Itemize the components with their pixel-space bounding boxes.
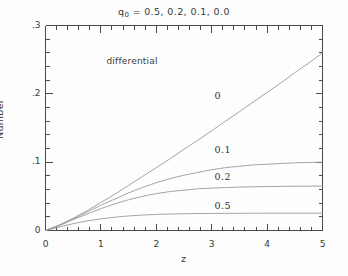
curve-label-0-2: 0.2	[214, 171, 231, 182]
y-tick-label: .1	[19, 156, 41, 166]
x-tick-label: 2	[146, 239, 166, 249]
y-tick-label: .3	[19, 20, 41, 30]
x-tick-label: 1	[91, 239, 111, 249]
x-tick-label: 5	[313, 239, 333, 249]
plot-svg	[0, 0, 348, 276]
x-tick-label: 3	[202, 239, 222, 249]
y-tick-label: .2	[19, 88, 41, 98]
curve-label-0: 0	[214, 90, 221, 101]
x-tick-label: 4	[257, 239, 277, 249]
x-tick-label: 0	[36, 239, 56, 249]
y-tick-label: 0	[19, 225, 41, 235]
figure-container: q0 = 0.5, 0.2, 0.1, 0.0 Number z 0123450…	[0, 0, 348, 276]
curve-label-0-5: 0.5	[214, 200, 231, 211]
curve-label-0-1: 0.1	[214, 144, 231, 155]
annotation-differential: differential	[106, 56, 157, 66]
